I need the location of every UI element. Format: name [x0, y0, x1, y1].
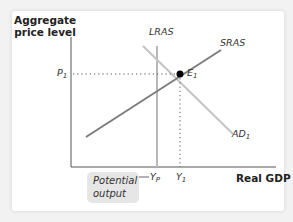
- sras-curve: [86, 50, 221, 137]
- potential-output-callout: Potential output: [87, 172, 139, 203]
- y-axis-label: Aggregate price level: [14, 14, 76, 38]
- y1-tick-label: Y1: [176, 171, 186, 184]
- p1-tick-label: P1: [57, 67, 67, 80]
- callout-line-1: Potential: [93, 174, 139, 187]
- x-axis-label: Real GDP: [236, 172, 291, 184]
- yp-tick-label: YP: [150, 171, 160, 184]
- sras-label: SRAS: [220, 37, 245, 48]
- callout-line-2: output: [93, 187, 139, 200]
- equilibrium-point: [177, 71, 184, 78]
- ad-label: AD1: [232, 128, 250, 141]
- lras-label: LRAS: [149, 26, 173, 37]
- equilibrium-label: E1: [187, 67, 197, 80]
